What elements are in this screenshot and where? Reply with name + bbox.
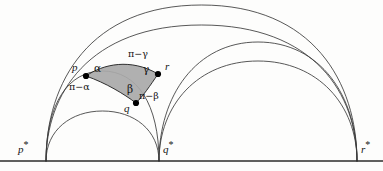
geodesic-arc-qstar-rstar-inner <box>159 61 357 161</box>
ideal-point-label-p-star-asterisk: * <box>24 139 29 150</box>
ideal-point-label-q-star: q* <box>163 140 174 155</box>
ideal-point-label-r-star: r* <box>361 140 370 155</box>
geodesic-arc-pstar-rstar-outer <box>46 5 357 161</box>
geodesic-arc-qstar-rstar-through-r <box>159 42 357 161</box>
angle-label-gamma: γ <box>143 64 149 75</box>
ideal-point-label-p-star: p* <box>18 140 29 155</box>
ideal-point-label-r-star-asterisk: * <box>365 139 370 150</box>
vertex-label-q: q <box>124 103 130 114</box>
angle-label-pi-minus-gamma: π−γ <box>128 49 148 59</box>
angle-label-beta: β <box>127 84 133 95</box>
geodesic-arc-pstar-rstar-through-p-r <box>46 25 357 161</box>
hyperbolic-triangle-figure: p q r α β γ π−α π−β π−γ p* q* r* <box>0 0 383 171</box>
geodesic-arc-pstar-qstar-small <box>46 111 159 161</box>
angle-label-alpha: α <box>94 63 101 74</box>
vertex-label-p: p <box>72 62 78 73</box>
ideal-point-label-q-star-asterisk: * <box>169 139 174 150</box>
angle-label-pi-minus-alpha: π−α <box>69 82 90 92</box>
vertex-label-r: r <box>165 61 169 72</box>
vertex-dot-p <box>83 73 89 79</box>
angle-label-pi-minus-beta: π−β <box>139 91 159 101</box>
diagram-canvas <box>0 0 383 171</box>
vertex-dot-r <box>155 71 161 77</box>
